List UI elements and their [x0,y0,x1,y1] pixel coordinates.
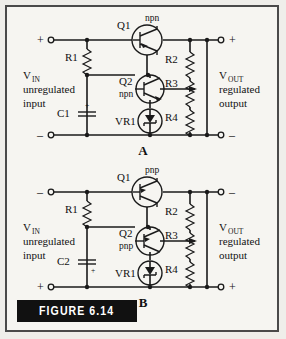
transistor-type-q2-a: npn [119,89,134,99]
component-label-vr1-a: VR1 [115,115,136,127]
component-label-q1-b: Q1 [117,171,130,183]
component-label-r2-b: R2 [165,205,178,217]
output-label-line2-a: regulated [219,83,260,95]
output-label-line3-a: output [219,97,247,109]
input-label-v-a: V [23,69,31,81]
input-label-line2-a: unregulated [23,83,75,95]
output-terminal-negative-b[interactable] [218,189,224,195]
output-sign-bottom-a: – [228,128,236,142]
input-label-line3-a: input [23,97,46,109]
input-label-line2-b: unregulated [23,235,75,247]
input-sign-top-a: + [37,33,44,47]
panel-label-b: B [139,295,148,310]
circuit-diagram-b: – + – + R1 Q1 pnp [7,159,277,319]
input-sign-bottom-b: + [37,280,44,294]
input-label-v-b: V [23,221,31,233]
transistor-type-q2-b: pnp [119,241,134,251]
input-label-line3-b: input [23,249,46,261]
component-label-r2-a: R2 [165,53,178,65]
output-terminal-positive-a[interactable] [218,37,224,43]
output-sign-top-b: – [228,185,236,199]
capacitor-polarity-c2-b: + [91,266,95,275]
component-label-vr1-b: VR1 [115,267,136,279]
output-label-v-b: V [219,221,227,233]
panel-label-a: A [138,143,148,158]
component-label-q2-a: Q2 [119,75,132,87]
input-terminal-negative-b[interactable] [48,189,54,195]
figure-caption-text: FIGURE 6.14 [39,304,114,318]
component-label-r4-b: R4 [165,263,178,275]
component-label-r3-b: R3 [165,229,178,241]
component-label-r1-b: R1 [65,203,78,215]
input-sign-bottom-a: – [36,128,44,142]
output-label-line2-b: regulated [219,235,260,247]
component-label-c2-b: C2 [57,255,70,267]
component-label-c1-a: C1 [57,107,70,119]
output-sign-bottom-b: + [229,280,236,294]
circuit-diagram-a: + – + – R1 Q1 npn [7,7,277,167]
transistor-type-q1-a: npn [145,13,160,23]
output-sign-top-a: + [229,33,236,47]
output-label-line3-b: output [219,249,247,261]
output-terminal-negative-a[interactable] [218,132,224,138]
output-terminal-positive-b[interactable] [218,284,224,290]
input-sign-top-b: – [36,185,44,199]
input-terminal-positive-a[interactable] [48,37,54,43]
figure-frame: + – + – R1 Q1 npn [5,5,279,332]
component-label-r4-a: R4 [165,111,178,123]
component-label-r3-a: R3 [165,77,178,89]
component-label-q1-a: Q1 [117,19,130,31]
transistor-type-q1-b: pnp [145,165,160,175]
component-label-r1-a: R1 [65,51,78,63]
component-label-q2-b: Q2 [119,227,132,239]
capacitor-polarity-c1-a: + [85,101,89,110]
output-label-v-a: V [219,69,227,81]
figure-caption-bar: FIGURE 6.14 [17,300,137,322]
input-terminal-negative-a[interactable] [48,132,54,138]
input-terminal-positive-b[interactable] [48,284,54,290]
